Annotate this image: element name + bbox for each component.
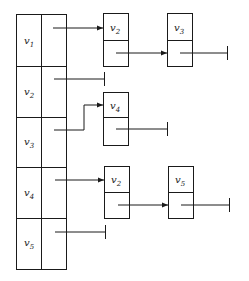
adjacency-list-diagram: v1 v2 v3 v4 v5 v2 v3 v4	[0, 0, 249, 281]
svg-text:v4: v4	[110, 100, 120, 114]
svg-text:v2: v2	[24, 86, 35, 100]
svg-text:v2: v2	[110, 22, 121, 36]
node-v3-v4: v4	[110, 100, 120, 114]
head-row-v4: v4	[24, 187, 34, 201]
svg-text:v2: v2	[111, 174, 122, 188]
head-row-v2: v2	[24, 86, 35, 100]
list-v2	[54, 72, 105, 86]
list-v5	[55, 225, 106, 239]
node-v4-v5: v5	[175, 174, 186, 188]
head-row-v5: v5	[24, 237, 35, 251]
svg-text:v5: v5	[24, 237, 35, 251]
list-v4	[55, 167, 230, 219]
node-v4-v2: v2	[111, 174, 122, 188]
head-row-v3: v3	[24, 136, 35, 150]
node-v1-v3: v3	[174, 22, 185, 36]
list-v1	[53, 14, 228, 67]
svg-text:v5: v5	[175, 174, 186, 188]
svg-text:v3: v3	[174, 22, 185, 36]
svg-text:v1: v1	[24, 35, 34, 49]
node-v1-v2: v2	[110, 22, 121, 36]
svg-text:v4: v4	[24, 187, 34, 201]
svg-text:v3: v3	[24, 136, 35, 150]
head-row-v1: v1	[24, 35, 34, 49]
